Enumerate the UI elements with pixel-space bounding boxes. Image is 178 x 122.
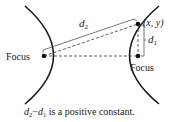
right-focus-label: Focus [130, 62, 154, 73]
d1-label: d1 [148, 33, 158, 47]
right-focus-point [136, 54, 141, 59]
left-focus-point [42, 54, 47, 59]
caption: d2−d1 is a positive constant. [24, 106, 135, 118]
left-focus-label: Focus [6, 51, 30, 62]
point-xy [136, 22, 141, 27]
d2-dashed-line [44, 24, 138, 56]
d1-bracket [141, 25, 144, 56]
d2-bracket [43, 19, 137, 53]
hyperbola-diagram: Focus Focus (x, y) d2 d1 d2−d1 is a posi… [0, 0, 178, 122]
point-xy-label: (x, y) [143, 17, 164, 29]
d2-label: d2 [79, 17, 89, 31]
